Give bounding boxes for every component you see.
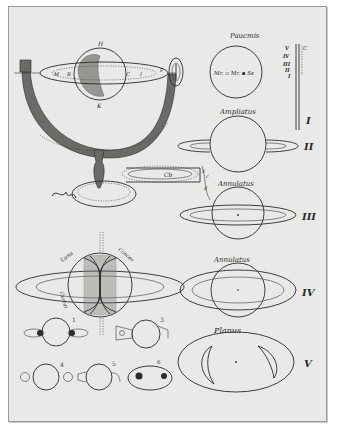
- figure-ii-title: Ampliatus: [219, 108, 256, 116]
- figure-i-inner-text: Mr. ▫ Mr. ▪ Ss: [213, 70, 254, 76]
- svg-text:1: 1: [72, 316, 76, 323]
- figure-ii-disc: [210, 116, 266, 172]
- svg-text:Curvat: Curvat: [59, 291, 70, 310]
- svg-text:IV: IV: [282, 53, 290, 59]
- instrument-glyph: Cb: [164, 171, 173, 178]
- label-b: B: [66, 71, 71, 77]
- figure-iv-title: Annulatus: [213, 256, 250, 264]
- figure-iii-disc: [212, 187, 264, 239]
- numeral-v: V: [304, 358, 313, 369]
- small-fig-3: [132, 320, 160, 348]
- figure-v: Planus V: [178, 326, 313, 392]
- svg-text:V: V: [285, 45, 290, 51]
- label-m: M: [53, 71, 60, 77]
- svg-text:c: c: [206, 173, 209, 179]
- ring-phase-diagram: Luna Concav Curvat: [16, 232, 184, 336]
- numeral-ii: II: [303, 141, 314, 152]
- small-figures: 1 3 4 5 6: [21, 316, 173, 390]
- svg-text:5: 5: [112, 360, 116, 367]
- saturn-ring: [40, 62, 168, 84]
- numeral-i: I: [305, 115, 311, 126]
- svg-text:C: C: [303, 45, 307, 51]
- side-instrument: Cb y c d: [122, 166, 210, 200]
- numeral-iii: III: [301, 211, 316, 222]
- small-fig-4: [33, 364, 59, 390]
- svg-text:4: 4: [60, 361, 64, 368]
- label-k: K: [96, 102, 102, 109]
- figure-ii: Ampliatus II: [178, 108, 314, 172]
- figure-iv: Annulatus IV: [180, 256, 316, 317]
- pedestal-column: [94, 150, 104, 188]
- svg-text:I: I: [287, 73, 291, 79]
- figure-iii: Annulatus III: [180, 180, 316, 239]
- figure-i-title: Paucmis: [229, 32, 260, 40]
- label-f: F: [159, 67, 164, 73]
- svg-text:6: 6: [157, 359, 161, 365]
- svg-text:3: 3: [160, 316, 164, 323]
- label-i: I: [139, 71, 143, 77]
- numeral-iv: IV: [301, 287, 316, 298]
- small-fig-5: [86, 364, 112, 390]
- label-c: C: [126, 71, 130, 77]
- svg-text:Luna: Luna: [58, 250, 74, 264]
- saturn-engraving: H K M B C I F Cb y c d Paucmis Mr. ▫ Mr.…: [0, 0, 337, 431]
- small-fig-1: [42, 318, 70, 346]
- pedestal-base: [72, 181, 136, 207]
- label-h: H: [97, 40, 104, 47]
